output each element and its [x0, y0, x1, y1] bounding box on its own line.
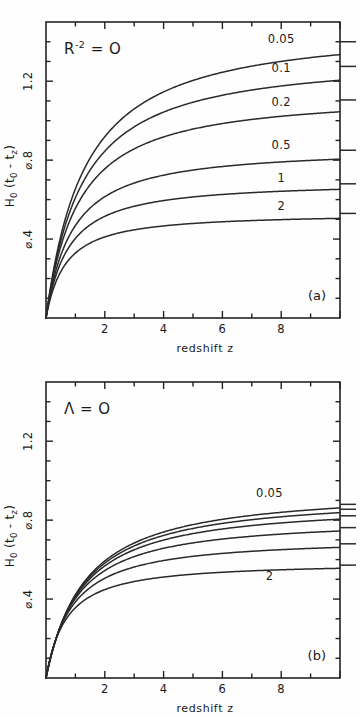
- data-curve: [46, 55, 340, 318]
- curve-label: 0.05: [268, 32, 295, 46]
- data-curve: [46, 531, 340, 678]
- panel-id-label: (b): [308, 648, 326, 663]
- x-tick-label: 4: [160, 682, 168, 696]
- x-axis-ticks: [75, 382, 340, 678]
- data-curve: [46, 547, 340, 678]
- data-curve: [46, 112, 340, 318]
- x-tick-label: 8: [277, 682, 285, 696]
- x-axis-title: redshift z: [176, 342, 233, 355]
- curve-label: 2: [266, 569, 274, 583]
- y-tick-label: 1.2: [21, 431, 35, 451]
- curve-label: 0.2: [272, 95, 291, 109]
- plot-frame: [46, 382, 340, 678]
- curve-label: 0.1: [272, 61, 291, 75]
- y-tick-label: ⌀.8: [21, 151, 35, 170]
- x-axis-ticks: [75, 22, 340, 318]
- curve-label: 2: [277, 199, 285, 213]
- curve-label: 0.5: [272, 138, 291, 152]
- x-axis-title: redshift z: [176, 702, 233, 715]
- panel-annotation: Λ = O: [64, 400, 111, 418]
- data-curve: [46, 568, 340, 678]
- plot-svg: 2468⌀.4⌀.81.2H0 (t0 - tz)redshift zR-2 =…: [0, 0, 361, 359]
- y-tick-label: ⌀.4: [21, 230, 35, 249]
- y-axis-ticks: [46, 402, 340, 659]
- data-curve: [46, 80, 340, 318]
- curve-label: 1: [277, 171, 285, 185]
- y-axis-title: H0 (t0 - tz): [3, 505, 19, 568]
- chart-panel-b: 2468⌀.4⌀.81.2H0 (t0 - tz)redshift zΛ = O…: [0, 359, 361, 718]
- data-curve: [46, 513, 340, 678]
- curve-label: 0.05: [256, 486, 283, 500]
- x-tick-label: 6: [219, 682, 227, 696]
- x-tick-label: 8: [277, 322, 285, 336]
- x-tick-label: 2: [101, 682, 109, 696]
- x-tick-label: 4: [160, 322, 168, 336]
- chart-panel-a: 2468⌀.4⌀.81.2H0 (t0 - tz)redshift zR-2 =…: [0, 0, 361, 359]
- x-tick-label: 2: [101, 322, 109, 336]
- y-axis-title: H0 (t0 - tz): [3, 145, 19, 208]
- plot-svg: 2468⌀.4⌀.81.2H0 (t0 - tz)redshift zΛ = O…: [0, 359, 361, 718]
- y-tick-label: ⌀.4: [21, 590, 35, 609]
- figure-canvas: 2468⌀.4⌀.81.2H0 (t0 - tz)redshift zR-2 =…: [0, 0, 361, 718]
- x-tick-label: 6: [219, 322, 227, 336]
- panel-annotation: R-2 = O: [64, 39, 121, 58]
- data-curve: [46, 218, 340, 318]
- y-tick-label: 1.2: [21, 71, 35, 91]
- panel-id-label: (a): [308, 288, 326, 303]
- y-tick-label: ⌀.8: [21, 511, 35, 530]
- data-curve: [46, 159, 340, 318]
